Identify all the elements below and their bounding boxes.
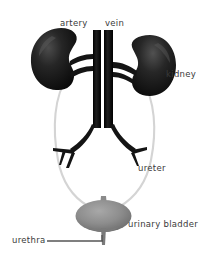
left-iliac-fork-c — [59, 150, 66, 165]
urinary-system-figure: artery vein kidney ureter urinary bladde… — [0, 0, 219, 256]
label-vein: vein — [105, 19, 124, 28]
right-renal-artery — [113, 72, 134, 84]
label-kidney: kidney — [166, 70, 196, 79]
left-iliac-branch — [70, 124, 95, 153]
kidney-group — [31, 28, 176, 96]
urinary-system-illustration — [0, 0, 219, 256]
label-urethra: urethra — [12, 236, 45, 245]
label-artery: artery — [60, 19, 88, 28]
urethra-leader-line — [47, 235, 103, 241]
right-iliac-branch — [110, 124, 136, 153]
right-kidney — [132, 35, 176, 96]
left-renal-artery — [70, 54, 93, 66]
aorta-trunk — [93, 30, 101, 128]
left-renal-vein — [70, 66, 93, 78]
vena-cava-trunk — [104, 30, 113, 128]
left-iliac-fork-b — [66, 152, 75, 168]
label-ureter: ureter — [138, 164, 166, 173]
label-urinary-bladder: urinary bladder — [128, 220, 198, 229]
bladder-group — [76, 196, 132, 232]
urinary-bladder — [76, 200, 132, 232]
